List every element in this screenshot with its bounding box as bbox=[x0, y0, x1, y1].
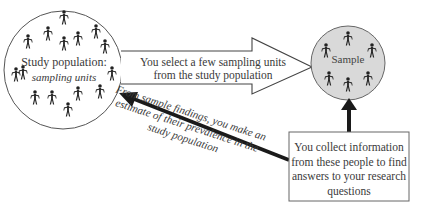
sample-label: Sample bbox=[310, 53, 386, 66]
sampling-units-label: sampling units bbox=[6, 71, 122, 84]
up-arrow bbox=[341, 98, 357, 132]
collect-box-text: You collect information from these peopl… bbox=[290, 140, 408, 198]
study-population-label: Study population: bbox=[6, 56, 122, 69]
select-arrow-text: You select a few sampling units from the… bbox=[128, 56, 298, 82]
study-population-circle bbox=[4, 10, 122, 129]
